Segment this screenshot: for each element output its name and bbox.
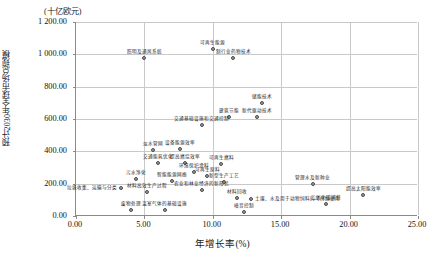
- data-point-label: 提高燃烧效率: [170, 156, 200, 161]
- data-point-label: 淡水管网: [143, 142, 163, 147]
- data-point-label: 材料高效生产过程: [127, 184, 167, 189]
- x-axis-tick-label: 15.00: [271, 220, 290, 229]
- data-point-label: 农业和林业经济的新形式: [174, 183, 229, 188]
- y-axis-tickmark: [73, 22, 76, 23]
- y-axis-tick-label: 0.00: [0, 211, 72, 220]
- gridline-horizontal: [76, 119, 417, 120]
- data-point: [151, 148, 155, 152]
- x-axis-tickmark: [144, 216, 145, 219]
- y-axis-tick-label: 600.00: [0, 114, 72, 123]
- y-axis-tick-label: 200.00: [0, 179, 72, 188]
- x-axis-tick-label: 20.00: [339, 220, 358, 229]
- data-point: [255, 115, 259, 119]
- gridline-vertical: [418, 22, 419, 215]
- data-point-label: 可再生燃料: [209, 157, 234, 162]
- gridline-horizontal: [76, 87, 417, 88]
- y-axis-tickmark: [73, 87, 76, 88]
- data-point: [219, 162, 223, 166]
- data-point: [170, 179, 174, 183]
- data-point-label: 新代驱动技术: [242, 109, 272, 114]
- data-point-label: 智能能源网络: [157, 174, 187, 179]
- y-axis-unit-label: (十亿欧元): [44, 4, 81, 16]
- data-point-label: 污水净化: [126, 171, 146, 176]
- data-point: [156, 161, 160, 165]
- gridline-horizontal: [76, 22, 417, 23]
- data-point: [142, 56, 146, 60]
- data-point-label: 制行业药物技术: [216, 51, 251, 56]
- scatter-chart: (十亿欧元) 预计2030年全球市场总规模 照明及通风系统可再生能源制行业药物技…: [0, 0, 445, 275]
- data-point: [324, 202, 328, 206]
- x-axis-tickmark: [76, 216, 77, 219]
- x-axis-tickmark: [418, 216, 419, 219]
- y-axis-tick-label: 1 200.00: [0, 17, 72, 26]
- y-axis-tick-label: 800.00: [0, 82, 72, 91]
- data-point: [311, 182, 315, 186]
- data-point: [231, 56, 235, 60]
- data-point-label: 管理水及新种业: [295, 177, 330, 182]
- data-point: [119, 186, 123, 190]
- x-axis-title: 年增长率(%): [0, 236, 445, 250]
- x-axis-tickmark: [281, 216, 282, 219]
- data-point-label: 材料回收: [227, 191, 247, 196]
- y-axis-tick-label: 400.00: [0, 146, 72, 155]
- x-axis-tick-label: 5.00: [136, 220, 151, 229]
- data-point: [361, 193, 365, 197]
- x-axis-tick-label: 10.00: [202, 220, 221, 229]
- data-point-label: 提高太阳能效率: [346, 187, 381, 192]
- x-axis-tickmark: [350, 216, 351, 219]
- data-point-label: 二氧化碳捕获: [311, 196, 341, 201]
- y-axis-tickmark: [73, 54, 76, 55]
- y-axis-tickmark: [73, 216, 76, 217]
- plot-area: 照明及通风系统可再生能源制行业药物技术储能技术建筑节能新代驱动技术交通基础设施和…: [75, 22, 417, 216]
- data-point: [134, 177, 138, 181]
- y-axis-tickmark: [73, 151, 76, 152]
- data-point: [260, 101, 264, 105]
- y-axis-title: 预计2030年全球市场总规模: [2, 50, 14, 146]
- gridline-horizontal: [76, 151, 417, 152]
- y-axis-tickmark: [73, 119, 76, 120]
- data-point: [145, 190, 149, 194]
- data-point-label: 新型生产工艺: [209, 174, 239, 179]
- data-point: [242, 210, 246, 214]
- data-point: [163, 208, 167, 212]
- x-axis-tickmark: [213, 216, 214, 219]
- data-point: [129, 208, 133, 212]
- x-axis-tick-label: 25.00: [408, 220, 427, 229]
- data-point-label: 废物处理: [121, 202, 141, 207]
- data-point: [211, 47, 215, 51]
- data-point-label: 交通能耗优化: [143, 155, 173, 160]
- data-point: [235, 196, 239, 200]
- data-point-label: 储能技术: [252, 95, 272, 100]
- data-point: [178, 147, 182, 151]
- data-point: [249, 197, 253, 201]
- data-point-label: 照明及通风系统: [127, 51, 162, 56]
- data-point-label: 温室气体的基础设施: [142, 203, 187, 208]
- data-point: [200, 188, 204, 192]
- data-point-label: 建筑节能: [219, 110, 239, 115]
- data-point-label: 可再生能源: [200, 41, 225, 46]
- data-point: [200, 123, 204, 127]
- data-point-label: 噪音控制: [234, 204, 254, 209]
- data-point-label: 垃圾收集、运输与分类: [67, 185, 117, 190]
- y-axis-tick-label: 1 000.00: [0, 49, 72, 58]
- data-point-label: 设备能源效率: [165, 141, 195, 146]
- x-axis-tick-label: 0.00: [68, 220, 83, 229]
- data-point-label: 交通基础设施和交通控制: [174, 118, 229, 123]
